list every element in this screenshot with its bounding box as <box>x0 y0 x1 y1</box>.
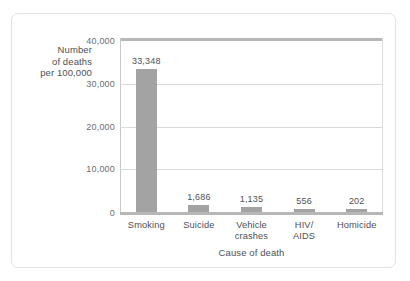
y-axis-title-line-3: per 100,000 <box>22 67 92 79</box>
y-axis-title: Number of deaths per 100,000 <box>22 44 92 79</box>
bar-group: 1,135 <box>225 194 278 212</box>
plot-area: 010,00020,00030,00040,00033,3481,6861,13… <box>120 38 383 215</box>
y-axis-tick-label: 40,000 <box>86 36 115 46</box>
bar-group: 556 <box>278 196 331 212</box>
y-axis-title-line-2: of deaths <box>22 56 92 68</box>
x-axis-tick-label: Vehiclecrashes <box>225 220 278 242</box>
x-axis-tick-label: Suicide <box>173 220 226 231</box>
y-axis-title-line-1: Number <box>22 44 92 56</box>
x-axis-tick-label-line: Smoking <box>120 220 173 231</box>
bar[interactable] <box>346 209 367 212</box>
x-axis-tick-label: Homicide <box>330 220 383 231</box>
bar-group: 33,348 <box>120 56 173 212</box>
axis-top-rule <box>120 38 383 41</box>
x-axis-tick-label-line: AIDS <box>278 231 331 242</box>
y-axis-tick-label: 20,000 <box>86 122 115 132</box>
bar-value-label: 556 <box>296 196 312 206</box>
x-axis-title: Cause of death <box>120 247 383 258</box>
y-axis-tick-label: 0 <box>110 208 115 218</box>
y-axis-tick-label: 30,000 <box>86 79 115 89</box>
x-axis-tick-label-line: Vehicle <box>225 220 278 231</box>
bar-group: 202 <box>330 196 383 212</box>
x-axis-tick-label-line: crashes <box>225 231 278 242</box>
x-axis-tick-label: HIV/AIDS <box>278 220 331 242</box>
x-axis-tick-label-line: Homicide <box>330 220 383 231</box>
bar-value-label: 1,135 <box>240 194 264 204</box>
y-axis-tick-label: 10,000 <box>86 164 115 174</box>
bar-value-label: 1,686 <box>187 192 211 202</box>
bar-group: 1,686 <box>173 192 226 212</box>
x-axis-tick-label: Smoking <box>120 220 173 231</box>
bar[interactable] <box>294 209 315 212</box>
x-axis-baseline <box>120 212 383 215</box>
bar-value-label: 202 <box>349 196 365 206</box>
x-axis-tick-label-line: HIV/ <box>278 220 331 231</box>
bar-value-label: 33,348 <box>132 56 161 66</box>
bar[interactable] <box>241 207 262 212</box>
bar[interactable] <box>136 69 157 212</box>
chart-figure: Number of deaths per 100,000 010,00020,0… <box>0 0 410 281</box>
bar[interactable] <box>188 205 209 212</box>
x-axis-tick-label-line: Suicide <box>173 220 226 231</box>
